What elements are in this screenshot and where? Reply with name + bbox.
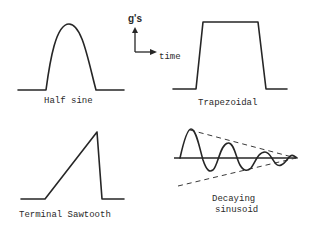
upper-envelope-line [190,130,296,158]
half-sine-waveform [18,24,124,90]
decaying-sinusoid-label-line1: Decaying [212,194,255,204]
half-sine-panel: Half sine [18,24,124,106]
terminal-sawtooth-panel: Terminal Sawtooth [19,132,124,220]
g-axis-label: g's [128,13,142,24]
terminal-sawtooth-label: Terminal Sawtooth [19,210,111,220]
trapezoidal-panel: Trapezoidal [173,22,287,108]
time-axis-label: time [159,52,181,62]
axis-legend: g's time [128,13,181,62]
decaying-sinusoid-waveform [180,129,297,171]
trapezoidal-label: Trapezoidal [198,98,257,108]
trapezoidal-waveform [173,22,287,89]
shock-pulse-diagram: Half sine g's time Trapezoidal Terminal … [0,0,309,228]
lower-envelope-line [178,158,296,186]
half-sine-label: Half sine [44,96,93,106]
y-axis-arrow-icon [132,27,138,33]
terminal-sawtooth-waveform [21,132,124,199]
x-axis-arrow-icon [150,49,157,55]
decaying-sinusoid-label-line2: sinusoid [215,205,258,215]
decaying-sinusoid-panel: Decaying sinusoid [174,129,297,215]
